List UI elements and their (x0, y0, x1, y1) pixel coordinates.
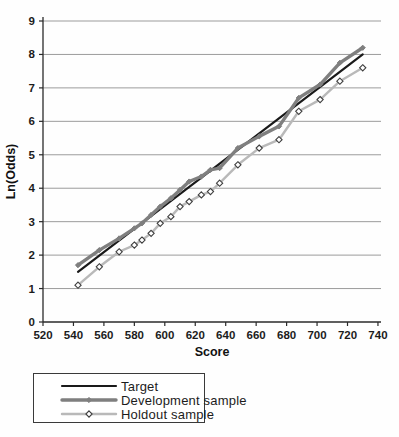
x-tick-label-580: 580 (125, 329, 144, 341)
y-tick-label-3: 3 (29, 216, 35, 228)
y-axis-title: Ln(Odds) (4, 144, 18, 200)
y-tick-label-0: 0 (29, 316, 35, 328)
x-tick-label-720: 720 (338, 329, 357, 341)
x-tick-label-700: 700 (307, 329, 326, 341)
x-tick-label-520: 520 (33, 329, 52, 341)
x-tick-label-740: 740 (368, 329, 387, 341)
x-axis-title: Score (195, 345, 230, 359)
y-tick-label-1: 1 (29, 283, 36, 295)
y-tick-label-7: 7 (29, 82, 35, 94)
y-tick-label-9: 9 (29, 15, 35, 27)
legend-marker-sample (86, 411, 92, 417)
legend-item-development-sample: Development sample (60, 393, 204, 407)
x-tick-label-560: 560 (94, 329, 113, 341)
legend-item-holdout-sample: Holdout sample (60, 407, 204, 421)
x-tick-label-660: 660 (247, 329, 266, 341)
lnodds-vs-score-chart: 5205405605806006206406606807007207400123… (0, 0, 399, 366)
legend-label: Development sample (121, 393, 247, 408)
legend-marker-sample (86, 397, 91, 402)
y-tick-label-5: 5 (29, 149, 36, 161)
legend-label: Target (121, 379, 158, 394)
y-tick-label-4: 4 (29, 182, 36, 194)
x-tick-label-680: 680 (277, 329, 296, 341)
legend-swatch-development-sample (60, 394, 118, 406)
data-series (75, 45, 366, 288)
legend-swatch-target (60, 380, 118, 392)
x-tick-label-640: 640 (216, 329, 235, 341)
legend-label: Holdout sample (121, 407, 214, 422)
x-tick-label-620: 620 (186, 329, 205, 341)
y-tick-label-6: 6 (29, 115, 35, 127)
y-tick-label-2: 2 (29, 249, 35, 261)
axes: 5205405605806006206406606807007207400123… (29, 15, 388, 341)
legend-item-target: Target (60, 379, 204, 393)
series-line-development-sample (78, 48, 363, 265)
y-tick-label-8: 8 (29, 48, 36, 60)
x-tick-label-600: 600 (155, 329, 174, 341)
legend-swatch-holdout-sample (60, 408, 118, 420)
chart-figure: 5205405605806006206406606807007207400123… (0, 0, 399, 437)
legend: TargetDevelopment sampleHoldout sample (33, 373, 205, 423)
gridlines (43, 21, 381, 289)
x-tick-label-540: 540 (64, 329, 83, 341)
